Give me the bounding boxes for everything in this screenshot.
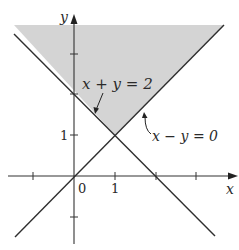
x-axis-label: x [226, 181, 234, 197]
label-pointer-x-minus-y [145, 117, 151, 134]
x-axis-arrow-icon [228, 173, 238, 180]
line-label-x-plus-y: x + y = 2 [82, 75, 153, 93]
graph-canvas: y x 0 1 1 x + y = 2 x − y = 0 [0, 0, 239, 250]
y-axis-arrow-icon [71, 14, 78, 24]
inequality-graph: y x 0 1 1 x + y = 2 x − y = 0 [0, 0, 239, 250]
line-label-x-minus-y: x − y = 0 [152, 128, 218, 144]
x-tick-label-1: 1 [111, 181, 119, 196]
pointer-arrowhead-icon-2 [142, 112, 148, 118]
y-axis-label: y [59, 9, 69, 25]
y-tick-label-1: 1 [60, 128, 68, 143]
origin-label: 0 [78, 181, 86, 196]
